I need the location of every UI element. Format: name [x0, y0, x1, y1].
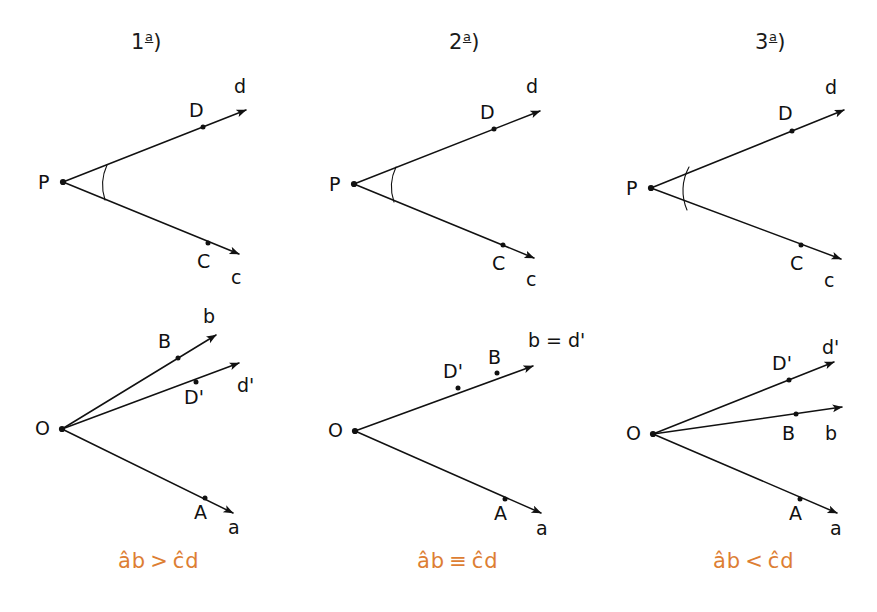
case-3-heading-paren: ): [777, 30, 786, 54]
case-1-ray-d-prime-label: d': [237, 376, 254, 395]
case-1-ray-c: [63, 182, 239, 254]
case-1-point-A-dot: [203, 496, 208, 501]
case-2-point-A-label: A: [494, 504, 507, 523]
case-2-point-C-label: C: [492, 254, 505, 273]
case-1-ray-d-label: d: [234, 77, 246, 96]
case-2-ray-d: [354, 111, 540, 184]
diagram-canvas: 1a) 2a) 3a) P D d C c O B b D' d' A a P …: [0, 0, 877, 612]
case-3-ray-d-label: d: [825, 78, 837, 97]
case-3-vertex-P-label: P: [626, 179, 637, 198]
case-3-ray-b: [653, 407, 842, 434]
case-1-ray-a-label: a: [228, 518, 240, 537]
case-2-point-D-prime-label: D': [443, 362, 463, 381]
case-2-point-D-label: D: [480, 103, 495, 122]
case-2-ray-c-label: c: [526, 270, 536, 289]
case-3-caption: âb<ĉd: [713, 551, 795, 572]
case-2-vertex-P-dot: [351, 181, 357, 187]
case-2-caption-right-angle: ĉd: [472, 549, 499, 573]
case-1-ray-b: [62, 335, 216, 429]
case-2-point-B-label: B: [488, 348, 501, 367]
case-2-point-D-dot: [492, 127, 497, 132]
case-3-heading: 3a): [755, 29, 786, 54]
case-1-point-C-label: C: [197, 252, 210, 271]
case-3-caption-operator: <: [741, 549, 768, 573]
case-3-point-D-prime-dot: [787, 378, 792, 383]
case-1-ray-b-label: b: [203, 307, 215, 326]
case-2-point-D-prime-dot: [456, 386, 461, 391]
case-1-point-B-label: B: [158, 332, 171, 351]
case-2-ray-c: [354, 184, 534, 258]
case-1-ray-a: [62, 429, 233, 513]
case-2-point-A-dot: [503, 497, 508, 502]
case-3-vertex-O-label: O: [626, 424, 641, 443]
case-2-caption-left-angle: âb: [417, 549, 445, 573]
case-3-point-B-label: B: [782, 424, 795, 443]
case-2-angle-arc: [391, 167, 396, 202]
case-3-ray-a-label: a: [830, 519, 842, 538]
case-2-vertex-O-label: O: [328, 421, 343, 440]
case-1-ray-d: [63, 110, 246, 182]
case-2-heading: 2a): [449, 29, 480, 54]
case-2-bottom-angle-ab: [352, 366, 541, 513]
case-2-caption: âb≡ĉd: [417, 551, 499, 572]
case-3-ray-d-prime: [653, 362, 834, 434]
case-3-top-angle-cd: [648, 110, 844, 259]
case-3-vertex-P-dot: [648, 185, 654, 191]
case-2-heading-paren: ): [471, 30, 480, 54]
case-1-point-C-dot: [206, 241, 211, 246]
case-1-point-D-label: D: [189, 101, 204, 120]
case-1-ray-d-prime: [62, 363, 239, 429]
case-2-caption-operator: ≡: [445, 549, 472, 573]
case-2-ray-b-equals-d-prime-label: b = d': [528, 331, 585, 350]
case-2-ray-a: [355, 431, 541, 513]
case-1-vertex-O-dot: [59, 426, 65, 432]
case-3-caption-left-angle: âb: [713, 549, 741, 573]
case-2-top-angle-cd: [351, 111, 540, 258]
case-2-heading-number: 2: [449, 30, 463, 54]
case-3-ray-b-label: b: [825, 424, 837, 443]
case-1-vertex-P-dot: [60, 179, 66, 185]
case-1-point-A-label: A: [194, 503, 207, 522]
case-1-heading-paren: ): [153, 30, 162, 54]
case-3-point-C-label: C: [790, 254, 803, 273]
case-2-ray-d-label: d: [526, 77, 538, 96]
case-1-heading-number: 1: [131, 30, 145, 54]
case-1-point-D-prime-label: D': [184, 388, 204, 407]
case-3-ray-a: [653, 434, 837, 513]
case-3-point-D-dot: [790, 129, 795, 134]
case-3-point-A-label: A: [789, 504, 802, 523]
case-3-caption-right-angle: ĉd: [768, 549, 795, 573]
case-1-point-D-prime-dot: [194, 380, 199, 385]
case-2-vertex-O-dot: [352, 428, 358, 434]
case-1-bottom-angle-ab: [59, 335, 239, 513]
case-1-caption-operator: >: [146, 549, 173, 573]
case-1-ray-c-label: c: [231, 268, 241, 287]
case-1-heading: 1a): [131, 29, 162, 54]
case-1-vertex-O-label: O: [35, 419, 50, 438]
case-1-vertex-P-label: P: [38, 173, 49, 192]
case-3-ray-c-label: c: [824, 271, 834, 290]
case-3-ray-c: [651, 188, 841, 259]
case-3-point-A-dot: [798, 497, 803, 502]
case-3-ray-d: [651, 110, 844, 188]
case-1-caption: âb>ĉd: [118, 551, 200, 572]
case-3-point-D-label: D: [778, 104, 793, 123]
case-2-point-C-dot: [501, 243, 506, 248]
case-1-point-D-dot: [201, 125, 206, 130]
case-1-top-angle-cd: [60, 110, 246, 254]
case-3-point-B-dot: [794, 412, 799, 417]
case-3-ray-d-prime-label: d': [822, 338, 839, 357]
case-3-heading-number: 3: [755, 30, 769, 54]
case-1-point-B-dot: [176, 356, 181, 361]
case-1-caption-right-angle: ĉd: [173, 549, 200, 573]
case-3-point-C-dot: [799, 243, 804, 248]
case-3-bottom-angle-ab: [650, 362, 842, 513]
case-1-angle-arc: [103, 165, 107, 200]
geometry-vector-layer: [0, 0, 877, 612]
case-1-caption-left-angle: âb: [118, 549, 146, 573]
case-2-ray-a-label: a: [536, 519, 548, 538]
case-3-point-D-prime-label: D': [772, 354, 792, 373]
case-2-point-B-dot: [495, 371, 500, 376]
case-3-vertex-O-dot: [650, 431, 656, 437]
case-2-vertex-P-label: P: [329, 175, 340, 194]
